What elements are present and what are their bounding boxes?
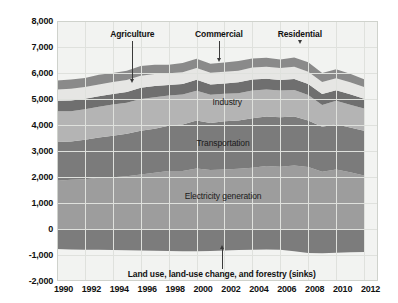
residential-callout-arrowhead bbox=[298, 40, 302, 44]
stacked-area-chart: 8,0007,0006,0005,0004,0003,0002,0001,000… bbox=[0, 0, 398, 303]
gridline-vertical bbox=[85, 21, 86, 281]
gridline-vertical bbox=[169, 21, 170, 281]
commercial-callout-arrowhead bbox=[217, 58, 221, 62]
gridline-horizontal bbox=[57, 255, 378, 256]
gridline-vertical bbox=[336, 21, 337, 281]
gridline-horizontal bbox=[57, 229, 378, 230]
x-axis-tick-label: 2002 bbox=[221, 284, 240, 294]
y-axis-tick-label: 0 bbox=[1, 224, 53, 234]
gridline-vertical bbox=[224, 21, 225, 281]
gridline-horizontal bbox=[57, 151, 378, 152]
x-axis-tick-label: 1996 bbox=[138, 284, 157, 294]
y-axis-tick-label: 3,000 bbox=[1, 146, 53, 156]
gridline-vertical bbox=[308, 21, 309, 281]
gridline-vertical bbox=[57, 21, 58, 281]
agriculture-callout-text: Agriculture bbox=[110, 29, 154, 39]
x-axis-tick-label: 1994 bbox=[110, 284, 129, 294]
y-axis-tick-label: 7,000 bbox=[1, 42, 53, 52]
commercial-callout-leader-line bbox=[219, 41, 220, 59]
x-axis: 1990199219941996199820002002200420062008… bbox=[57, 284, 378, 300]
gridline-vertical bbox=[113, 21, 114, 281]
y-axis-tick-label: 5,000 bbox=[1, 94, 53, 104]
x-axis-tick-label: 2006 bbox=[277, 284, 296, 294]
electricity-label: Electricity generation bbox=[185, 191, 262, 201]
x-axis-tick-label: 1998 bbox=[166, 284, 185, 294]
x-axis-tick-label: 2008 bbox=[305, 284, 324, 294]
x-axis-tick-label: 1992 bbox=[82, 284, 101, 294]
y-axis: 8,0007,0006,0005,0004,0003,0002,0001,000… bbox=[0, 21, 53, 281]
series-area-land-use-sinks bbox=[57, 229, 364, 253]
x-axis-tick-label: 2000 bbox=[193, 284, 212, 294]
agriculture-callout-arrowhead bbox=[130, 79, 134, 83]
gridline-vertical bbox=[280, 21, 281, 281]
x-axis-tick-label: 1990 bbox=[54, 284, 73, 294]
residential-callout-text: Residential bbox=[278, 29, 322, 39]
gridline-horizontal bbox=[57, 177, 378, 178]
gridline-horizontal bbox=[57, 203, 378, 204]
landuse-callout-leader-line bbox=[222, 249, 223, 269]
commercial-callout-text: Commercial bbox=[195, 29, 243, 39]
agriculture-callout-leader-line bbox=[132, 41, 133, 80]
x-axis-tick-label: 2004 bbox=[249, 284, 268, 294]
y-axis-tick-label: 2,000 bbox=[1, 172, 53, 182]
gridline-horizontal bbox=[57, 47, 378, 48]
y-axis-tick-label: 1,000 bbox=[1, 198, 53, 208]
gridline-horizontal bbox=[57, 73, 378, 74]
x-axis-tick-label: 2012 bbox=[361, 284, 380, 294]
landuse-callout-text: Land use, land-use change, and forestry … bbox=[128, 269, 316, 279]
y-axis-tick-label: 6,000 bbox=[1, 68, 53, 78]
gridline-horizontal bbox=[57, 21, 378, 22]
transportation-label: Transportation bbox=[197, 138, 250, 148]
y-axis-tick-label: 4,000 bbox=[1, 120, 53, 130]
gridline-vertical bbox=[197, 21, 198, 281]
y-axis-tick-label: -2,000 bbox=[1, 276, 53, 286]
industry-label: Industry bbox=[213, 97, 242, 107]
gridline-vertical bbox=[252, 21, 253, 281]
gridline-vertical bbox=[141, 21, 142, 281]
y-axis-tick-label: 8,000 bbox=[1, 16, 53, 26]
y-axis-tick-label: -1,000 bbox=[1, 250, 53, 260]
x-axis-tick-label: 2010 bbox=[333, 284, 352, 294]
gridline-horizontal bbox=[57, 125, 378, 126]
landuse-callout-arrowhead bbox=[220, 245, 224, 249]
gridline-vertical bbox=[364, 21, 365, 281]
